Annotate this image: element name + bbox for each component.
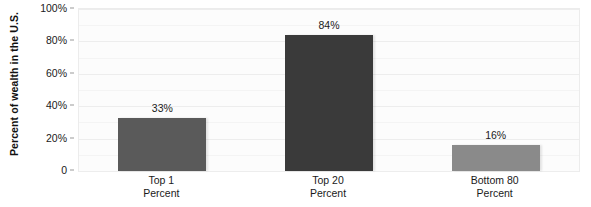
x-axis-category-label-line: Percent	[245, 187, 412, 200]
y-axis-tick-labels: 020%40%60%80%100%	[22, 0, 74, 180]
x-axis-category-label-line: Percent	[411, 187, 578, 200]
y-axis-tick-mark	[70, 8, 74, 9]
y-axis-tick-label: 20%	[17, 132, 67, 144]
y-axis-tick-label: 0	[17, 164, 67, 176]
y-axis-tick-label: 80%	[17, 34, 67, 46]
plot-area: 33%84%16%	[78, 8, 580, 172]
gridline-major	[79, 9, 579, 10]
bar-value-label: 16%	[452, 129, 540, 141]
x-axis-category-label: Top 20Percent	[245, 174, 412, 200]
y-axis-tick-mark	[70, 170, 74, 171]
y-axis-tick-mark	[70, 72, 74, 73]
y-axis-tick-label: 40%	[17, 99, 67, 111]
y-axis-title-container: Percent of wealth in the U.S.	[0, 0, 22, 180]
y-axis-tick-mark	[70, 40, 74, 41]
bar-value-label: 84%	[285, 19, 373, 31]
bar	[452, 145, 540, 171]
x-axis-category-label-line: Percent	[78, 187, 245, 200]
y-axis-tick-label: 60%	[17, 67, 67, 79]
bar	[285, 35, 373, 171]
y-axis-tick-mark	[70, 137, 74, 138]
x-axis-category-label: Top 1Percent	[78, 174, 245, 200]
x-axis-category-label-line: Top 20	[245, 174, 412, 187]
x-axis-category-label-line: Bottom 80	[411, 174, 578, 187]
y-axis-tick-mark	[70, 105, 74, 106]
x-axis-category-label: Bottom 80Percent	[411, 174, 578, 200]
bar-value-label: 33%	[118, 102, 206, 114]
x-axis-category-labels: Top 1PercentTop 20PercentBottom 80Percen…	[78, 174, 580, 207]
x-axis-category-label-line: Top 1	[78, 174, 245, 187]
y-axis-tick-label: 100%	[17, 2, 67, 14]
gridline-major	[79, 171, 579, 172]
bar-chart-figure: Percent of wealth in the U.S. 020%40%60%…	[0, 0, 591, 207]
bar	[118, 118, 206, 171]
